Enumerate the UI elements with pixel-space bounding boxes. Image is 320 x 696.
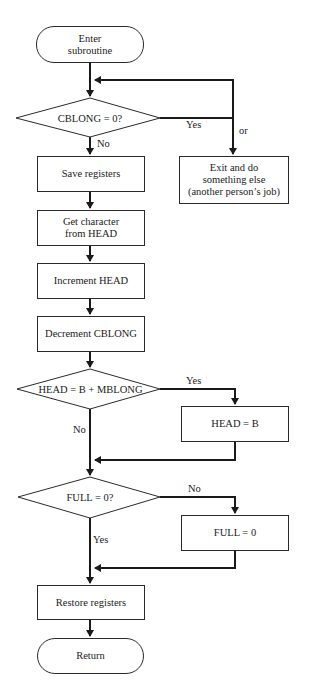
decrement-cblong-box: Decrement CBLONG [37,316,145,352]
get-character-box: Get character from HEAD [37,210,145,246]
edge-label-cblong-yes: Yes [186,119,201,130]
edge-label-head-no: No [73,424,86,435]
edge-label-full-yes: Yes [93,534,108,545]
restore-registers-box: Restore registers [37,585,145,620]
decision-head-label: HEAD = B + MBLONG [28,381,153,397]
edge-label-head-yes: Yes [186,375,201,386]
edge-label-cblong-no: No [97,138,110,149]
save-registers-box: Save registers [37,156,145,192]
return-terminator: Return [37,638,144,674]
full-eq-0-box: FULL = 0 [181,515,289,551]
edge-label-or: or [239,125,248,136]
decision-cblong-label: CBLONG = 0? [40,110,140,126]
edge-label-full-no: No [188,483,201,494]
start-terminator: Enter subroutine [36,26,144,63]
decision-full-label: FULL = 0? [40,489,140,505]
increment-head-box: Increment HEAD [37,263,145,299]
exit-box: Exit and do something else (another pers… [179,156,289,204]
head-eq-b-box: HEAD = B [181,406,289,442]
